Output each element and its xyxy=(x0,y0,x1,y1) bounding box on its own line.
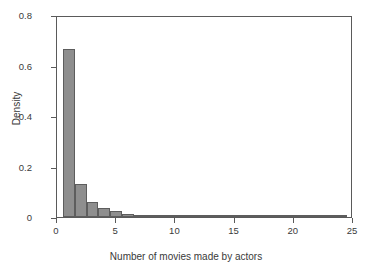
plot-area xyxy=(56,16,352,218)
histogram-bar xyxy=(335,215,347,217)
y-tick-label: 0.6 xyxy=(19,62,32,72)
x-tick-mark xyxy=(352,218,353,223)
histogram-bar xyxy=(134,215,146,217)
histogram-bar xyxy=(181,215,193,217)
x-axis-title: Number of movies made by actors xyxy=(0,251,372,262)
y-tick-label: 0.8 xyxy=(19,11,32,21)
x-tick-mark xyxy=(234,218,235,223)
histogram-bar xyxy=(158,215,170,217)
histogram-bar xyxy=(241,215,253,217)
histogram-bar xyxy=(276,215,288,217)
histogram-bar xyxy=(217,215,229,217)
x-tick-label: 15 xyxy=(219,225,249,236)
x-tick-mark xyxy=(293,218,294,223)
y-axis-title: Density xyxy=(11,79,22,139)
x-tick-label: 20 xyxy=(278,225,308,236)
histogram-bar xyxy=(98,208,110,217)
histogram-bar xyxy=(205,215,217,217)
x-tick-label: 25 xyxy=(337,225,367,236)
x-tick-label: 10 xyxy=(159,225,189,236)
histogram-screenshot: Density 00.20.40.60.8 0510152025 Number … xyxy=(0,0,372,277)
histogram-bar xyxy=(264,215,276,217)
x-tick-mark xyxy=(56,218,57,223)
histogram-bar xyxy=(122,214,134,217)
histogram-bar xyxy=(193,215,205,217)
histogram-bar xyxy=(110,211,122,217)
histogram-bar xyxy=(252,215,264,217)
histogram-bar xyxy=(87,202,99,217)
x-tick-mark xyxy=(174,218,175,223)
x-tick-mark xyxy=(115,218,116,223)
histogram-bar xyxy=(63,49,75,217)
histogram-bar xyxy=(146,215,158,217)
histogram-bar xyxy=(312,215,324,217)
histogram-bars xyxy=(57,17,351,217)
histogram-bar xyxy=(75,184,87,217)
histogram-bar xyxy=(300,215,312,217)
histogram-bar xyxy=(169,215,181,217)
histogram-bar xyxy=(323,215,335,217)
x-tick-label: 5 xyxy=(100,225,130,236)
histogram-bar xyxy=(229,215,241,217)
histogram-bar xyxy=(288,215,300,217)
y-tick-label: 0.4 xyxy=(19,112,32,122)
y-tick-label: 0.2 xyxy=(19,163,32,173)
x-tick-label: 0 xyxy=(41,225,71,236)
x-axis: 0510152025 Number of movies made by acto… xyxy=(0,218,372,277)
